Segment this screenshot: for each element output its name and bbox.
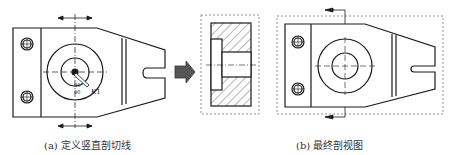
process-arrow-icon <box>175 61 195 83</box>
bolt-hole-bottom <box>21 91 33 103</box>
drawing-canvas: 90° 90 K1 <box>0 0 455 155</box>
through-hole <box>222 52 251 77</box>
part-view-a <box>13 14 165 128</box>
bolt-hole-bottom <box>292 83 304 95</box>
part-outline <box>285 24 435 107</box>
part-view-b <box>277 8 443 119</box>
view-frame <box>277 16 443 114</box>
section-marker-bottom <box>325 107 345 119</box>
counterbore <box>211 39 222 90</box>
point-label: K1 <box>91 88 101 96</box>
angle-label-b: 90 <box>74 89 80 95</box>
angle-label-a: 90° <box>74 82 83 88</box>
caption-a: (a) 定义竖直剖切线 <box>44 137 131 152</box>
bolt-hole-top <box>292 36 304 48</box>
section-view <box>201 15 259 114</box>
caption-b: (b) 最终剖视图 <box>296 137 363 152</box>
bolt-hole-top <box>21 38 33 50</box>
